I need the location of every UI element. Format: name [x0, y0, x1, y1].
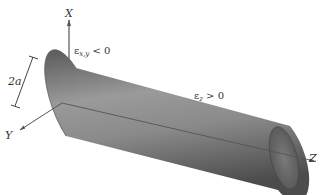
x-axis-label: X: [65, 8, 73, 19]
axial-strain-label: εz > 0: [194, 91, 224, 103]
cylinder-diagram: [0, 0, 321, 195]
strain-subscript: x,y: [79, 50, 89, 58]
y-axis-label: Y: [5, 130, 12, 141]
diameter-label: 2a: [8, 76, 22, 87]
z-axis-label: Z: [309, 153, 317, 164]
strain-relation: > 0: [206, 90, 224, 101]
strain-relation: < 0: [93, 45, 111, 56]
strain-subscript: z: [199, 95, 203, 103]
transverse-strain-label: εx,y < 0: [74, 46, 110, 58]
cylinder-body: [45, 50, 309, 195]
